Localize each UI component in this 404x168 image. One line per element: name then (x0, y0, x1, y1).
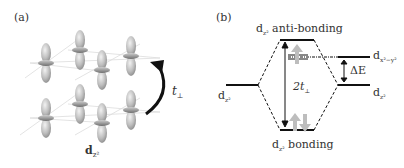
lattice-illustration (0, 0, 200, 168)
splitting-label: 2t⊥ (293, 80, 310, 94)
delta-e-label: ΔE (350, 64, 366, 77)
panel-b-energy-diagram: (b) dz² anti-bonding dz² bonding dz² dx²… (200, 0, 404, 168)
panel-a-label: (a) (14, 11, 29, 24)
left-level-label: dz² (218, 89, 231, 103)
panel-a-lattice: (a) t⊥ dz² (0, 0, 200, 168)
orbital-label: dz² (85, 144, 99, 159)
panel-b-label: (b) (216, 11, 232, 24)
delta-e-arrow-icon (341, 60, 347, 82)
right-upper-level-label: dx²−y² (373, 49, 397, 63)
antibonding-label: dz² anti-bonding (256, 22, 343, 36)
lattice-lines-bottom (20, 92, 160, 135)
hopping-label: t⊥ (172, 84, 183, 100)
bonding-label: dz² bonding (272, 138, 334, 152)
splitting-arrow-icon (282, 42, 288, 127)
orbitals-top-layer (38, 30, 139, 90)
right-lower-level-label: dz² (373, 86, 386, 100)
hopping-arrow-icon (146, 60, 164, 114)
